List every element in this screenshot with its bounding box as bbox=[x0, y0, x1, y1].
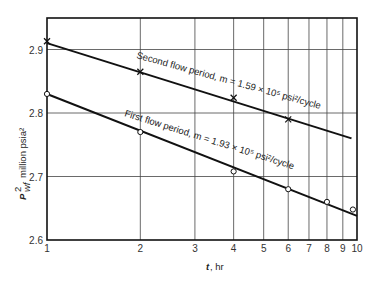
lower-annotation: First flow period, m = 1.93 × 10⁵ psi²/c… bbox=[123, 107, 295, 171]
x-tick-label: 2 bbox=[138, 243, 144, 254]
circle-marker-icon bbox=[350, 207, 355, 212]
svg-text:P: P bbox=[17, 193, 28, 200]
circle-marker-icon bbox=[286, 187, 291, 192]
svg-text:million psia²: million psia² bbox=[17, 128, 28, 178]
x-tick-label: 1 bbox=[44, 243, 50, 254]
y-tick-label: 2.9 bbox=[29, 45, 43, 56]
x-tick-label: 5 bbox=[261, 243, 267, 254]
pressure-time-chart: 2.62.72.82.9 12345678910 Second flow per… bbox=[0, 0, 378, 281]
grid-lines bbox=[47, 18, 357, 240]
x-axis-label: t , hr bbox=[206, 261, 224, 272]
x-tick-label: 8 bbox=[324, 243, 330, 254]
plot-frame bbox=[47, 18, 357, 240]
circle-marker-icon bbox=[44, 91, 49, 96]
fit-line bbox=[47, 94, 357, 216]
circle-marker-icon bbox=[231, 169, 236, 174]
x-tick-label: 7 bbox=[306, 243, 312, 254]
circle-marker-icon bbox=[324, 199, 329, 204]
svg-text:wf: wf bbox=[21, 181, 32, 192]
x-tick-label: 3 bbox=[192, 243, 198, 254]
x-axis-ticks: 12345678910 bbox=[44, 243, 363, 254]
y-axis-ticks: 2.62.72.82.9 bbox=[29, 45, 43, 247]
x-tick-label: 6 bbox=[285, 243, 291, 254]
x-tick-label: 9 bbox=[340, 243, 346, 254]
x-tick-label: 4 bbox=[231, 243, 237, 254]
svg-text:, hr: , hr bbox=[210, 261, 224, 272]
y-axis-label: P 2 wf million psia² bbox=[12, 128, 32, 200]
circle-marker-icon bbox=[138, 129, 143, 134]
y-tick-label: 2.8 bbox=[29, 108, 43, 119]
fit-line bbox=[47, 43, 352, 138]
x-tick-label: 10 bbox=[351, 243, 363, 254]
y-tick-label: 2.7 bbox=[29, 172, 43, 183]
y-tick-label: 2.6 bbox=[29, 235, 43, 246]
